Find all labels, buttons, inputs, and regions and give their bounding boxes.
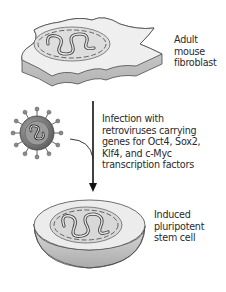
ipsc-label: Induced pluripotent stem cell xyxy=(154,209,204,244)
infection-label: Infection with retroviruses carrying gen… xyxy=(102,113,200,171)
retrovirus-icon xyxy=(11,107,63,159)
ipsc-label-line: Induced xyxy=(154,209,204,221)
ipsc-label-line: pluripotent xyxy=(154,221,204,233)
fibroblast-label-line: fibroblast xyxy=(174,57,217,69)
infection-label-line: genes for Oct4, Sox2, xyxy=(102,136,200,148)
ipsc-label-line: stem cell xyxy=(154,232,204,244)
process-arrow xyxy=(89,101,97,192)
infection-label-line: transcription factors xyxy=(102,159,200,171)
virus-connector-line xyxy=(70,139,93,158)
fibroblast-label-line: mouse xyxy=(174,46,217,58)
infection-label-line: Infection with xyxy=(102,113,200,125)
infection-label-line: retroviruses carrying xyxy=(102,125,200,137)
arrowhead-icon xyxy=(89,183,97,192)
fibroblast-label-line: Adult xyxy=(174,34,217,46)
fibroblast-cell-illustration xyxy=(22,18,162,86)
fibroblast-label: Adult mouse fibroblast xyxy=(174,34,217,69)
ipsc-illustration xyxy=(34,200,145,268)
infection-label-line: Klf4, and c-Myc xyxy=(102,148,200,160)
